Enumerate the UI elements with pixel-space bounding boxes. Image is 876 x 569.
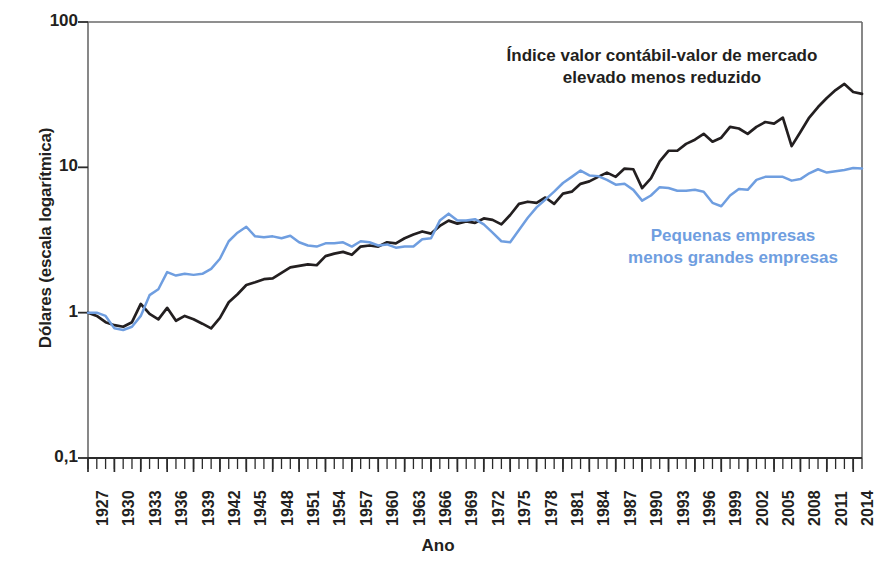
x-tick-label: 1999 (728, 490, 744, 526)
x-tick-label: 1984 (596, 490, 612, 526)
y-axis-title: Dólares (escala logarítmica) (36, 88, 56, 388)
x-tick-label: 1957 (359, 490, 375, 526)
x-tick-label: 2011 (834, 491, 850, 526)
x-tick-label: 1963 (412, 490, 428, 526)
series-line-hml (88, 84, 862, 328)
x-tick-label: 1960 (385, 490, 401, 526)
x-tick-label: 1942 (227, 490, 243, 526)
x-tick-label: 2008 (807, 490, 823, 526)
x-tick-label: 1978 (544, 490, 560, 526)
x-tick-label: 1966 (438, 490, 454, 526)
annotation-smb-line-1: Pequenas empresas (600, 225, 866, 247)
x-tick-label: 1927 (95, 490, 111, 526)
x-tick-label: 2014 (860, 490, 876, 526)
y-tick-label: 1 (69, 303, 78, 320)
x-tick-label: 1939 (201, 490, 217, 526)
x-tick-label: 2002 (755, 490, 771, 526)
y-tick-label: 100 (50, 12, 78, 29)
x-tick-label: 1972 (491, 490, 507, 526)
x-tick-label: 1945 (253, 490, 269, 526)
x-tick-label: 1930 (121, 490, 137, 526)
x-tick-label: 1951 (306, 490, 322, 526)
annotation-hml: Índice valor contábil-valor de mercado e… (472, 45, 852, 89)
annotation-smb-line-2: menos grandes empresas (600, 247, 866, 269)
x-tick-label: 1987 (623, 490, 639, 526)
x-tick-label: 1981 (570, 490, 586, 526)
x-tick-label: 1954 (332, 490, 348, 526)
y-tick-label: 10 (59, 157, 78, 174)
data-series-group (88, 84, 862, 330)
x-tick-label: 1969 (464, 490, 480, 526)
x-tick-label: 1990 (649, 490, 665, 526)
annotation-smb: Pequenas empresas menos grandes empresas (600, 225, 866, 269)
x-tick-label: 1948 (280, 490, 296, 526)
chart-figure: Dólares (escala logarítmica) Ano 1001010… (0, 0, 876, 569)
y-tick-label: 0,1 (54, 448, 78, 465)
x-axis-title: Ano (0, 536, 876, 556)
x-axis-minor-ticks (88, 458, 862, 469)
x-tick-label: 1996 (702, 490, 718, 526)
x-tick-label: 1933 (148, 490, 164, 526)
y-axis-ticks (78, 22, 88, 458)
annotation-hml-line-1: Índice valor contábil-valor de mercado (472, 45, 852, 67)
annotation-hml-line-2: elevado menos reduzido (472, 67, 852, 89)
x-tick-label: 1975 (517, 490, 533, 526)
x-tick-label: 1936 (174, 490, 190, 526)
x-tick-label: 2005 (781, 490, 797, 526)
x-tick-label: 1993 (676, 490, 692, 526)
